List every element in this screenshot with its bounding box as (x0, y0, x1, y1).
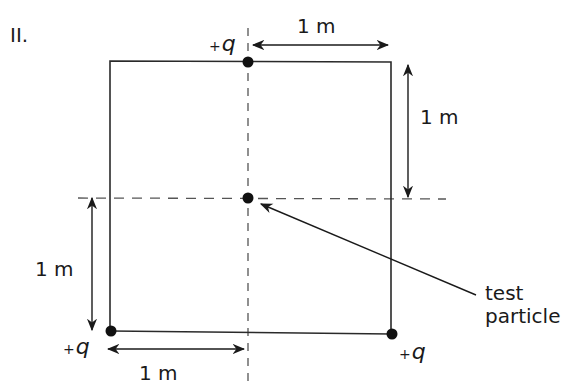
charge-bottom-left: +q (63, 326, 117, 360)
dimension-label: 1 m (420, 105, 459, 129)
charge-dot (106, 326, 117, 337)
test-particle-label-line1: test (485, 281, 524, 305)
dimension-top-horizontal: 1 m (253, 14, 388, 45)
charge-symbol: q (412, 339, 426, 364)
svg-text:+q: +q (399, 339, 426, 364)
diagram-figure: II. +q +q +q test particle 1 m 1 m (0, 0, 577, 388)
svg-text:+q: +q (209, 31, 236, 56)
svg-text:+q: +q (63, 334, 90, 359)
dimension-label: 1 m (35, 257, 74, 281)
charge-sign: + (63, 341, 75, 357)
charge-symbol: q (76, 334, 90, 359)
charge-sign: + (209, 38, 221, 54)
figure-label: II. (10, 23, 28, 47)
dimension-bottom-horizontal: 1 m (108, 349, 244, 385)
charge-dot (387, 329, 398, 340)
test-particle-label-line2: particle (485, 304, 560, 328)
test-particle: test particle (243, 193, 561, 329)
dimension-label: 1 m (297, 14, 336, 38)
dimension-label: 1 m (139, 361, 178, 385)
charge-symbol: q (222, 31, 236, 56)
charge-dot (243, 57, 254, 68)
charge-sign: + (399, 346, 411, 362)
dimension-right-vertical: 1 m (408, 65, 459, 197)
test-particle-dot (243, 193, 254, 204)
charge-bottom-right: +q (387, 329, 426, 365)
pointer-arrow (261, 204, 476, 295)
dimension-left-vertical: 1 m (35, 198, 92, 330)
